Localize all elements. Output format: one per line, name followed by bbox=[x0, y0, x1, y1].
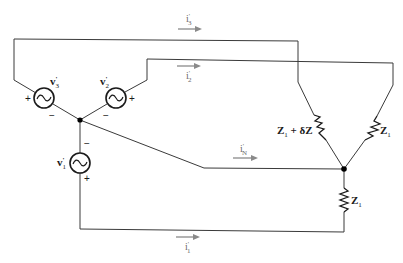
v2-minus-sign: − bbox=[103, 110, 109, 121]
source-label-v3: v'3 bbox=[50, 75, 59, 90]
impedance-label-right: Z1 bbox=[380, 124, 391, 139]
wire-zleft-node bbox=[326, 140, 344, 169]
wire-v3-neutral bbox=[53, 104, 80, 120]
v1-minus-sign: − bbox=[84, 138, 90, 149]
v3-minus-sign: − bbox=[49, 110, 55, 121]
source-v3 bbox=[34, 88, 54, 108]
impedance-z-bottom-icon bbox=[340, 188, 348, 212]
current-label-i3: i'3 bbox=[186, 12, 192, 27]
wires bbox=[14, 39, 393, 232]
wire-line-2 bbox=[125, 59, 393, 116]
wire-zright-node bbox=[344, 140, 365, 169]
source-label-v1: v'1 bbox=[57, 156, 66, 171]
v2-plus-sign: + bbox=[129, 93, 135, 104]
wire-line-1 bbox=[80, 173, 344, 232]
source-neutral-node bbox=[77, 117, 82, 122]
load-neutral-node bbox=[341, 166, 347, 172]
wire-line-3 bbox=[14, 39, 314, 115]
current-label-i1: i'1 bbox=[185, 240, 191, 255]
impedance-label-bottom: Z1 bbox=[351, 194, 362, 209]
source-label-v2: v'2 bbox=[100, 75, 109, 90]
current-label-iN: i'N bbox=[240, 142, 247, 157]
source-v2 bbox=[106, 88, 126, 108]
impedance-z-left-icon bbox=[314, 115, 326, 140]
impedance-z-right-icon bbox=[365, 116, 380, 140]
circuit-svg: i'3 i'2 i'N i'1 v'3 v'2 v'1 + − + − − + … bbox=[0, 0, 403, 263]
impedance-label-left: Z1 + δZ bbox=[277, 124, 313, 139]
circuit-diagram: i'3 i'2 i'N i'1 v'3 v'2 v'1 + − + − − + … bbox=[0, 0, 403, 263]
v1-plus-sign: + bbox=[84, 173, 90, 184]
current-label-i2: i'2 bbox=[186, 69, 192, 84]
v3-plus-sign: + bbox=[25, 93, 31, 104]
source-v1 bbox=[70, 153, 90, 173]
